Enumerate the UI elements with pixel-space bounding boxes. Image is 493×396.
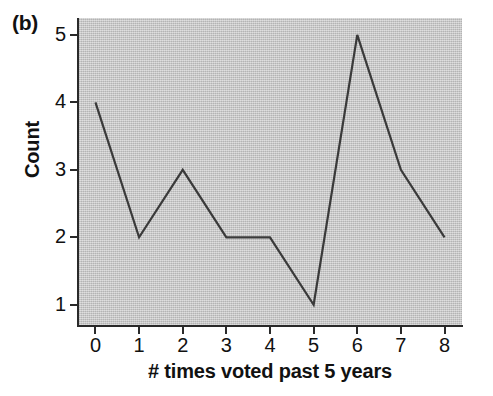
y-ticklabel-1: 1 bbox=[42, 294, 66, 314]
x-ticklabel-6: 6 bbox=[337, 335, 377, 356]
x-ticklabel-8: 8 bbox=[425, 335, 465, 356]
figure-panel-b: (b) 012345678 12345 # times voted past 5… bbox=[0, 0, 493, 396]
y-ticklabel-2: 2 bbox=[42, 226, 66, 246]
y-ticklabel-3: 3 bbox=[42, 159, 66, 179]
x-ticklabel-4: 4 bbox=[250, 335, 290, 356]
y-ticklabel-5: 5 bbox=[42, 24, 66, 44]
y-axis-label: Count bbox=[21, 105, 44, 195]
x-ticklabel-7: 7 bbox=[381, 335, 421, 356]
x-tick-1 bbox=[138, 327, 140, 334]
x-ticklabel-1: 1 bbox=[119, 335, 159, 356]
x-tick-5 bbox=[313, 327, 315, 334]
y-axis-spine bbox=[77, 18, 79, 326]
line-chart-svg bbox=[78, 18, 462, 325]
x-ticklabel-2: 2 bbox=[163, 335, 203, 356]
x-tick-6 bbox=[356, 327, 358, 334]
x-axis-label: # times voted past 5 years bbox=[78, 360, 462, 383]
x-ticklabel-5: 5 bbox=[294, 335, 334, 356]
y-ticklabel-4: 4 bbox=[42, 91, 66, 111]
y-tick-3 bbox=[70, 169, 77, 171]
x-tick-8 bbox=[444, 327, 446, 334]
x-ticklabel-0: 0 bbox=[75, 335, 115, 356]
x-ticklabel-3: 3 bbox=[206, 335, 246, 356]
panel-label: (b) bbox=[12, 12, 38, 33]
x-tick-3 bbox=[225, 327, 227, 334]
y-tick-1 bbox=[70, 304, 77, 306]
x-tick-7 bbox=[400, 327, 402, 334]
y-tick-2 bbox=[70, 236, 77, 238]
y-tick-4 bbox=[70, 101, 77, 103]
x-tick-2 bbox=[182, 327, 184, 334]
x-tick-0 bbox=[94, 327, 96, 334]
x-tick-4 bbox=[269, 327, 271, 334]
y-tick-5 bbox=[70, 34, 77, 36]
plot-area bbox=[78, 18, 462, 325]
data-series-line bbox=[95, 35, 444, 305]
